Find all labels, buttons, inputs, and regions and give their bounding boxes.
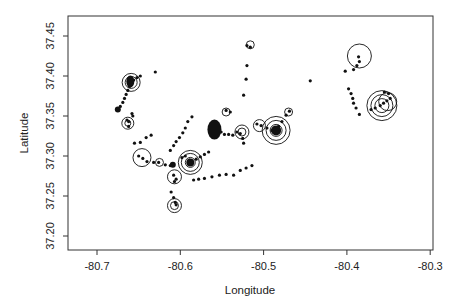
y-tick-label: 37.30 <box>44 142 56 170</box>
data-point <box>131 114 134 117</box>
data-point <box>255 122 258 125</box>
y-axis-title: Latitude <box>18 113 30 154</box>
data-point <box>150 134 153 137</box>
data-point <box>210 175 213 178</box>
data-point <box>218 174 221 177</box>
cluster-blob <box>126 76 134 88</box>
data-point <box>382 102 385 105</box>
data-point <box>309 79 312 82</box>
data-point <box>288 110 291 113</box>
circle-marker <box>167 199 181 213</box>
y-tick-label: 37.20 <box>44 222 56 250</box>
data-point <box>145 160 148 163</box>
data-point <box>172 174 175 177</box>
data-point <box>139 141 142 144</box>
x-tick-label: -80.7 <box>84 260 109 272</box>
data-point <box>192 178 195 181</box>
circle-marker <box>253 120 265 132</box>
x-tick-label: -80.4 <box>334 260 359 272</box>
y-tick-label: 37.35 <box>44 102 56 130</box>
x-tick-label: -80.5 <box>251 260 276 272</box>
data-point <box>125 93 128 96</box>
data-point <box>137 154 140 157</box>
data-point <box>357 55 360 58</box>
data-point <box>352 68 355 71</box>
data-point <box>242 142 245 145</box>
x-tick-label: -80.6 <box>168 260 193 272</box>
x-tick-label: -80.3 <box>418 260 443 272</box>
data-point <box>358 60 361 63</box>
cluster-blob <box>115 107 121 113</box>
data-point <box>139 74 142 77</box>
data-point <box>173 180 176 183</box>
data-point <box>175 140 178 143</box>
circle-marker <box>238 128 246 136</box>
y-tick-label: 37.25 <box>44 182 56 210</box>
plot-frame <box>68 16 433 250</box>
data-point <box>354 106 357 109</box>
data-point <box>227 133 230 136</box>
y-tick-label: 37.45 <box>44 22 56 50</box>
data-point <box>351 97 354 100</box>
data-point <box>223 133 226 136</box>
x-axis-title: Longitude <box>225 284 276 296</box>
data-point <box>184 126 187 129</box>
data-point <box>170 190 173 193</box>
data-point <box>175 203 178 206</box>
data-point <box>231 134 234 137</box>
data-point <box>245 166 248 169</box>
cluster-blob <box>186 158 194 166</box>
data-point <box>344 70 347 73</box>
data-point <box>190 115 193 118</box>
data-point <box>352 102 355 105</box>
data-point <box>141 157 144 160</box>
data-point <box>242 94 245 97</box>
cluster-blob <box>170 162 176 168</box>
data-point <box>239 169 242 172</box>
data-point <box>347 87 350 90</box>
data-point <box>154 70 157 73</box>
data-point <box>225 173 228 176</box>
data-point <box>145 136 148 139</box>
data-point <box>245 64 248 67</box>
data-point <box>355 64 358 67</box>
data-point <box>121 101 124 104</box>
data-point <box>203 153 206 156</box>
data-point <box>232 174 235 177</box>
data-point <box>245 78 248 81</box>
data-point <box>181 131 184 134</box>
data-point <box>164 163 167 166</box>
y-axis: 37.2037.2537.3037.3537.4037.45 <box>44 22 68 250</box>
data-point <box>186 120 189 123</box>
x-axis: -80.7-80.6-80.5-80.4-80.3 <box>84 250 442 272</box>
data-point <box>152 161 155 164</box>
circle-marker <box>371 95 393 117</box>
cluster-blob <box>271 125 281 135</box>
data-point <box>349 92 352 95</box>
data-point <box>178 136 181 139</box>
data-point <box>358 113 361 116</box>
data-point <box>197 178 200 181</box>
data-point <box>225 109 228 112</box>
scatter-plot: -80.7-80.6-80.5-80.4-80.3 37.2037.2537.3… <box>0 0 462 307</box>
data-point <box>203 177 206 180</box>
plot-area <box>115 41 397 213</box>
data-point <box>157 161 160 164</box>
data-point <box>133 142 136 145</box>
data-point <box>250 164 253 167</box>
data-point <box>207 150 210 153</box>
data-point <box>169 149 172 152</box>
cluster-blob <box>207 120 221 140</box>
y-tick-label: 37.40 <box>44 62 56 90</box>
data-point <box>123 97 126 100</box>
data-point <box>172 144 175 147</box>
